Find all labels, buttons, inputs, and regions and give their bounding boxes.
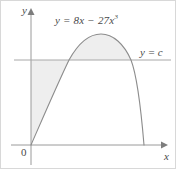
curve-equation-text: y = 8x − 27x <box>55 14 114 26</box>
curve-equation-label: y = 8x − 27x3 <box>55 15 118 26</box>
y-axis-label: y <box>22 5 27 16</box>
origin-label: 0 <box>21 147 27 158</box>
y-axis-arrow-icon <box>28 8 35 15</box>
x-axis-label: x <box>164 151 169 162</box>
cubic-function-plot <box>1 1 176 169</box>
horizontal-line-label: y = c <box>140 47 163 58</box>
figure-container: y = 8x − 27x3 y = c y x 0 <box>0 0 176 169</box>
x-axis-arrow-icon <box>161 142 168 149</box>
curve-equation-exponent: 3 <box>114 13 118 21</box>
